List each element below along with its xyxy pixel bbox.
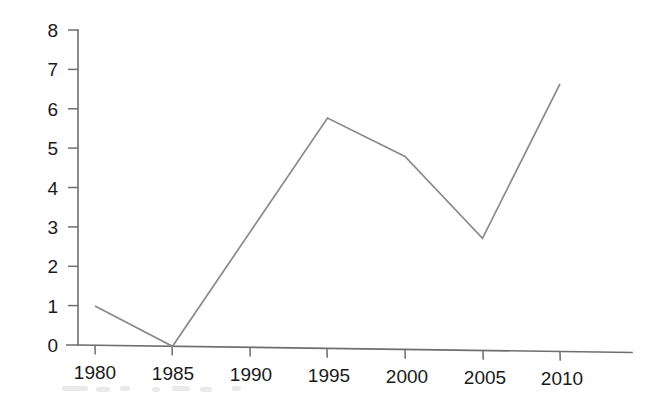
y-tick-label-3: 3 (47, 217, 58, 238)
x-tick-label-2000: 2000 (386, 366, 428, 387)
line-chart: 8 7 6 5 4 3 2 1 0 (0, 0, 658, 404)
y-tick-label-5: 5 (47, 138, 58, 159)
y-tick-label-2: 2 (47, 256, 58, 277)
y-tick-label-1: 1 (47, 296, 58, 317)
x-tick-label-2005: 2005 (464, 367, 506, 388)
chart-background (0, 0, 658, 404)
y-tick-label-7: 7 (47, 59, 58, 80)
x-tick-label-1985: 1985 (152, 363, 194, 384)
x-tick-label-1995: 1995 (308, 365, 350, 386)
x-tick-label-1990: 1990 (230, 364, 272, 385)
y-tick-label-0: 0 (47, 335, 58, 356)
y-axis-tick-labels: 8 7 6 5 4 3 2 1 0 (47, 20, 58, 356)
y-tick-label-6: 6 (47, 99, 58, 120)
x-tick-label-2010: 2010 (541, 368, 583, 389)
y-tick-label-4: 4 (47, 178, 58, 199)
y-tick-label-8: 8 (47, 20, 58, 41)
x-tick-label-1980: 1980 (74, 362, 116, 383)
chart-canvas: 8 7 6 5 4 3 2 1 0 (0, 0, 658, 404)
